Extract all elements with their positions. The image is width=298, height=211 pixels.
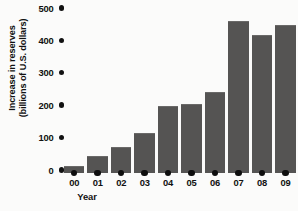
x-axis-tick-label-04: 04 <box>158 177 178 190</box>
y-axis-tick-label: 0 <box>49 165 54 176</box>
x-axis-tick-dot-icon <box>118 170 125 177</box>
x-axis-tick-label-08: 08 <box>252 177 272 190</box>
bar-group <box>64 11 290 173</box>
y-axis-tick-400: 400 <box>18 34 64 46</box>
x-axis-tick-dot-icon <box>141 170 148 177</box>
y-axis-tick-dot-icon <box>59 102 64 107</box>
x-axis-tick-dot-icon <box>212 170 219 177</box>
bar-slot <box>64 11 84 173</box>
x-axis-tick-label-05: 05 <box>181 177 201 190</box>
x-axis-tick-labels: 00010203040506070809 <box>64 177 290 190</box>
y-axis-title-line1: Increase in reserves <box>7 25 17 110</box>
y-axis-tick-label: 400 <box>39 35 54 46</box>
x-axis-tick-dot-icon <box>94 170 101 177</box>
bar-chart: Increase in reserves (billions of U.S. d… <box>0 0 298 211</box>
x-axis-tick-dot-icon <box>235 170 242 177</box>
y-axis-tick-label: 200 <box>39 100 54 111</box>
plot-area <box>64 8 290 173</box>
bar-03[interactable] <box>134 133 154 173</box>
x-axis-tick-dot-icon <box>188 170 195 177</box>
bar-04[interactable] <box>158 106 178 173</box>
y-axis-tick-dot-icon <box>59 38 64 43</box>
bar-slot <box>111 11 131 173</box>
y-axis-tick-label: 300 <box>39 67 54 78</box>
y-axis-tick-dot-icon <box>59 135 64 140</box>
x-axis-tick-label-09: 09 <box>275 177 295 190</box>
bar-slot <box>134 11 154 173</box>
x-axis-tick-label-00: 00 <box>64 177 84 190</box>
bar-08[interactable] <box>252 35 272 173</box>
y-axis-tick-dot-icon <box>59 167 64 172</box>
x-axis-tick-dot-icon <box>282 170 289 177</box>
y-axis-tick-label: 500 <box>39 3 54 14</box>
y-axis-tick-200: 200 <box>18 99 64 111</box>
bar-05[interactable] <box>181 104 201 173</box>
x-axis-title: Year <box>64 191 110 202</box>
bar-slot <box>87 11 107 173</box>
bar-07[interactable] <box>228 21 248 173</box>
bar-06[interactable] <box>205 92 225 173</box>
bar-slot <box>275 11 295 173</box>
x-axis-tick-label-06: 06 <box>205 177 225 190</box>
x-axis-tick-label-02: 02 <box>111 177 131 190</box>
x-axis-tick-dot-icon <box>165 170 172 177</box>
bar-slot <box>158 11 178 173</box>
y-axis-tick-100: 100 <box>18 132 64 144</box>
bar-slot <box>252 11 272 173</box>
x-axis-tick-label-07: 07 <box>228 177 248 190</box>
x-axis-tick-dot-icon <box>71 170 78 177</box>
x-axis-tick-dot-icon <box>259 170 266 177</box>
y-axis-tick-0: 0 <box>18 164 64 176</box>
bar-slot <box>205 11 225 173</box>
y-axis-tick-dot-icon <box>59 5 64 10</box>
y-axis-tick-300: 300 <box>18 67 64 79</box>
x-axis-tick-label-03: 03 <box>134 177 154 190</box>
y-axis-tick-500: 500 <box>18 2 64 14</box>
bar-slot <box>181 11 201 173</box>
x-axis-tick-label-01: 01 <box>87 177 107 190</box>
bar-09[interactable] <box>275 25 295 173</box>
y-axis-tick-dot-icon <box>59 70 64 75</box>
y-axis-tick-label: 100 <box>39 132 54 143</box>
bar-slot <box>228 11 248 173</box>
